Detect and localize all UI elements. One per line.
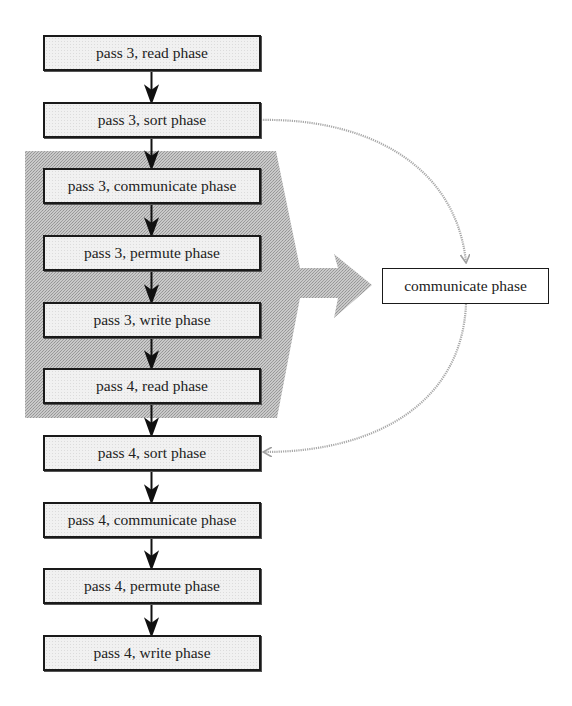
node-label: pass 3, sort phase <box>98 111 207 129</box>
node-pass4-write: pass 4, write phase <box>43 635 261 671</box>
node-label: pass 3, permute phase <box>84 244 220 262</box>
node-pass3-read: pass 3, read phase <box>43 35 261 71</box>
node-pass3-write: pass 3, write phase <box>43 302 261 338</box>
node-label: pass 4, sort phase <box>98 444 207 462</box>
node-label: pass 3, write phase <box>93 311 210 329</box>
node-label: pass 4, permute phase <box>84 577 220 595</box>
node-pass4-communicate: pass 4, communicate phase <box>43 502 261 538</box>
node-pass3-permute: pass 3, permute phase <box>43 235 261 271</box>
node-label: communicate phase <box>404 277 527 295</box>
node-label: pass 3, communicate phase <box>68 177 237 195</box>
node-pass4-sort: pass 4, sort phase <box>43 435 261 471</box>
node-pass4-permute: pass 4, permute phase <box>43 568 261 604</box>
node-label: pass 3, read phase <box>96 44 208 62</box>
node-label: pass 4, write phase <box>93 644 210 662</box>
node-label: pass 4, communicate phase <box>68 511 237 529</box>
node-communicate-side: communicate phase <box>382 268 549 304</box>
node-pass3-sort: pass 3, sort phase <box>43 102 261 138</box>
node-pass4-read: pass 4, read phase <box>43 368 261 404</box>
node-pass3-communicate: pass 3, communicate phase <box>43 168 261 204</box>
node-label: pass 4, read phase <box>96 377 208 395</box>
phase-overlap-diagram: pass 3, read phase pass 3, sort phase pa… <box>0 0 572 706</box>
